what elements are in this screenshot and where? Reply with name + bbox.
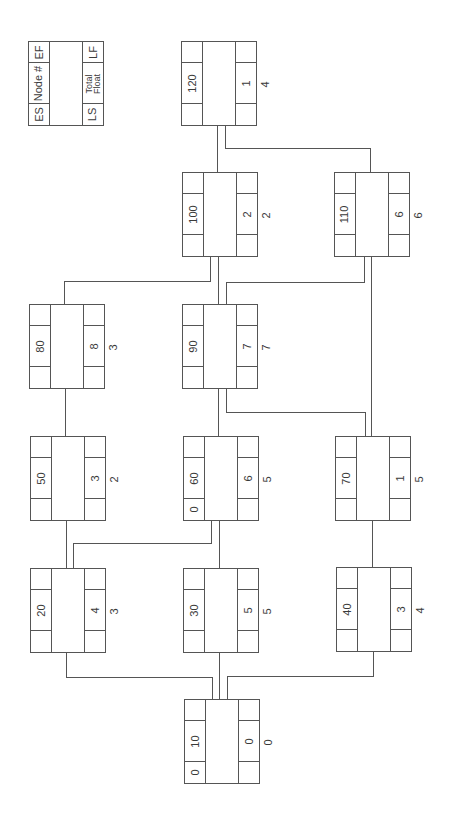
- node-10-side-label: 0: [261, 732, 275, 752]
- edge-40-70: [372, 521, 373, 567]
- node-number: 100: [187, 205, 198, 223]
- legend-right-strip: LF Total Float LS: [82, 42, 103, 125]
- edge-110-120-c: [370, 148, 371, 172]
- node-total-float: 6: [394, 211, 405, 217]
- node-total-float: 1: [241, 80, 252, 86]
- edge-100-120: [217, 126, 218, 172]
- node-40-side-label: 4: [413, 600, 427, 620]
- edge-110-120-a: [225, 126, 226, 148]
- edge-10-40-a: [373, 651, 374, 676]
- legend-box: EF Node # ES LF Total Float LS: [28, 41, 104, 126]
- node-110-side-label: 6: [411, 205, 425, 225]
- edge-20-50: [66, 521, 67, 568]
- legend-lf-label: LF: [88, 46, 99, 59]
- node-80[interactable]: 80 8: [29, 304, 105, 389]
- node-120[interactable]: 120 1: [181, 41, 257, 126]
- node-es: 0: [190, 769, 201, 775]
- node-100[interactable]: 100 2: [182, 172, 258, 257]
- node-40[interactable]: 40 3: [336, 567, 412, 652]
- node-20[interactable]: 20 4: [30, 568, 106, 653]
- node-70[interactable]: 70 1: [335, 436, 411, 521]
- edge-110-120-b: [225, 148, 371, 149]
- edge-30-60: [219, 521, 220, 568]
- node-total-float: 5: [243, 607, 254, 613]
- node-number: 50: [36, 472, 47, 484]
- edge-10-20-c: [212, 677, 213, 699]
- edge-10-20-b: [66, 677, 212, 678]
- edge-10-40-c: [227, 676, 228, 699]
- legend-left-strip: EF Node # ES: [29, 42, 50, 125]
- node-total-float: 6: [243, 475, 254, 481]
- node-30[interactable]: 30 5: [183, 568, 259, 653]
- node-es: 0: [189, 506, 200, 512]
- node-number: 20: [36, 604, 47, 616]
- edge-10-40-b: [227, 676, 374, 677]
- legend-ef-label: EF: [34, 45, 45, 59]
- node-total-float: 7: [242, 343, 253, 349]
- legend-es-label: ES: [34, 107, 45, 122]
- node-60-side-label: 5: [260, 469, 274, 489]
- node-number: 10: [190, 735, 201, 747]
- node-total-float: 3: [396, 606, 407, 612]
- node-30-side-label: 5: [260, 601, 274, 621]
- legend-node-number-label: Node #: [34, 66, 45, 101]
- edge-10-30: [219, 653, 220, 699]
- node-number: 90: [188, 340, 199, 352]
- node-80-side-label: 3: [106, 337, 120, 357]
- node-50[interactable]: 50 3: [30, 436, 106, 521]
- node-120-side-label: 4: [258, 74, 272, 94]
- edge-80-100-b: [64, 281, 211, 282]
- edge-20-60-c: [73, 543, 74, 568]
- node-total-float: 0: [244, 738, 255, 744]
- node-90-side-label: 7: [259, 337, 273, 357]
- legend-ls-label: LS: [88, 108, 99, 121]
- node-60[interactable]: 60 0 6: [183, 436, 259, 521]
- edge-70-90-b: [226, 412, 366, 413]
- node-number: 30: [189, 604, 200, 616]
- edge-20-60-a: [211, 521, 212, 543]
- edge-70-90-c: [365, 412, 366, 436]
- node-number: 60: [189, 472, 200, 484]
- node-total-float: 4: [90, 607, 101, 613]
- edge-90-110-b: [226, 282, 365, 283]
- node-number: 40: [342, 603, 353, 615]
- node-20-side-label: 3: [107, 601, 121, 621]
- edge-20-60-b: [73, 543, 212, 544]
- node-total-float: 1: [395, 475, 406, 481]
- edge-50-80: [65, 389, 66, 436]
- edge-60-90: [218, 389, 219, 436]
- node-70-side-label: 5: [412, 469, 426, 489]
- node-100-side-label: 2: [259, 205, 273, 225]
- node-total-float: 8: [89, 343, 100, 349]
- edge-90-110-c: [226, 282, 227, 304]
- edge-10-20-a: [66, 653, 67, 677]
- node-number: 80: [35, 340, 46, 352]
- node-number: 70: [341, 472, 352, 484]
- node-50-side-label: 2: [107, 469, 121, 489]
- node-10[interactable]: 10 0 0: [184, 699, 260, 784]
- edge-90-100: [218, 257, 219, 304]
- edge-80-100-a: [210, 257, 211, 281]
- edge-90-110-a: [364, 257, 365, 282]
- edge-70-90-a: [226, 389, 227, 412]
- node-110[interactable]: 110 6: [334, 172, 410, 257]
- legend-total-float-label: Total Float: [85, 73, 101, 93]
- node-number: 110: [339, 206, 350, 224]
- node-90[interactable]: 90 7: [182, 304, 258, 389]
- node-number: 120: [186, 74, 197, 92]
- node-total-float: 2: [242, 211, 253, 217]
- edge-70-110: [371, 257, 372, 436]
- edge-80-100-c: [64, 281, 65, 304]
- node-total-float: 3: [90, 475, 101, 481]
